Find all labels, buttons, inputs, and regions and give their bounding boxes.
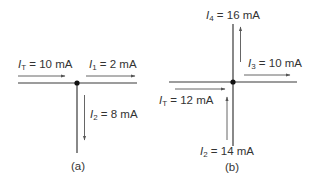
junction-dot <box>230 79 235 84</box>
label-i2-b: I2 = 14 mA <box>200 146 254 159</box>
subscript: 2 <box>93 113 97 122</box>
caption-a: (a) <box>71 161 85 173</box>
kirchhoff-current-diagrams <box>0 0 313 182</box>
subscript: 1 <box>92 63 96 72</box>
subscript: T <box>21 63 26 72</box>
label-i3-b: I3 = 10 mA <box>248 58 302 71</box>
subscript: 2 <box>203 150 207 159</box>
value: = 14 mA <box>211 145 254 157</box>
diagram-b <box>169 24 297 146</box>
value: = 10 mA <box>259 57 302 69</box>
caption-b: (b) <box>225 162 239 174</box>
subscript: 4 <box>209 14 213 23</box>
label-it-b: IT = 12 mA <box>159 95 213 108</box>
subscript: 3 <box>251 62 255 71</box>
value: = 8 mA <box>101 108 138 120</box>
junction-dot <box>74 80 79 85</box>
label-i1-a: I1 = 2 mA <box>89 59 137 72</box>
label-i4-b: I4 = 16 mA <box>206 10 260 23</box>
value: = 12 mA <box>170 94 213 106</box>
label-it-a: IT = 10 mA <box>18 59 72 72</box>
value: = 10 mA <box>29 58 72 70</box>
label-i2-a: I2 = 8 mA <box>90 109 138 122</box>
value: = 16 mA <box>217 9 260 21</box>
subscript: T <box>162 99 167 108</box>
value: = 2 mA <box>100 58 137 70</box>
